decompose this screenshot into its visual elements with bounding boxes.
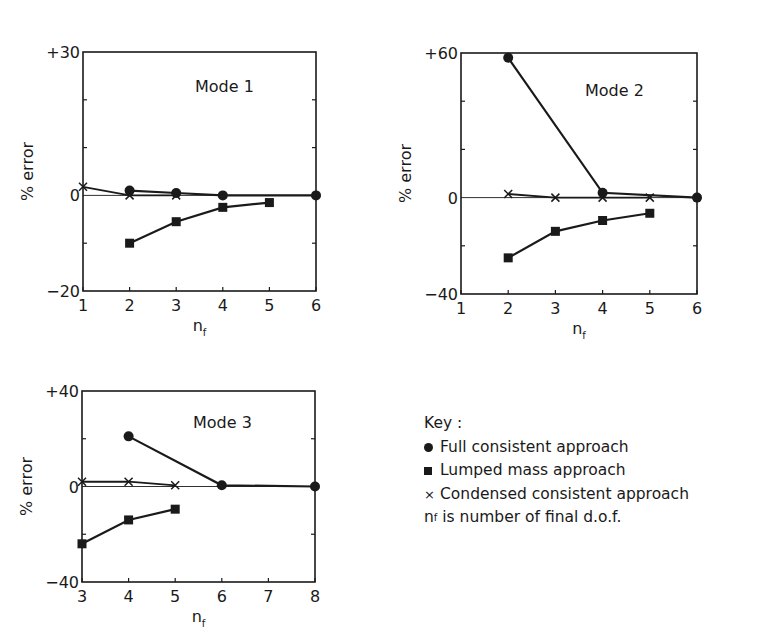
chart-mode-2: 123456+600−40nf% errorMode 2: [396, 44, 702, 341]
x-tick-label: 6: [311, 296, 321, 315]
circle-marker-icon: [503, 53, 513, 63]
x-tick-label: 8: [310, 587, 320, 606]
x-tick-label: 6: [217, 587, 227, 606]
circle-marker-icon: [124, 431, 134, 441]
y-tick-label: −40: [424, 285, 458, 304]
series-line: [508, 213, 650, 258]
chart-mode-1: 123456+300−20nf% errorMode 1: [18, 43, 321, 338]
x-tick-label: 5: [264, 296, 274, 315]
y-tick-label: −20: [46, 282, 80, 301]
x-axis-label: nf: [193, 316, 207, 338]
chart-title: Mode 2: [585, 81, 644, 100]
legend-item-condensed-consistent: × Condensed consistent approach: [424, 483, 689, 507]
y-axis-label: % error: [18, 142, 37, 201]
x-tick-label: 3: [171, 296, 181, 315]
square-marker-icon: [172, 217, 181, 226]
chart-title: Mode 1: [195, 77, 254, 96]
square-marker-icon: [265, 198, 274, 207]
y-tick-label: 0: [70, 186, 80, 205]
x-tick-label: 2: [503, 299, 513, 318]
x-tick-label: 4: [124, 587, 134, 606]
x-axis-label: nf: [572, 319, 586, 341]
y-tick-label: +60: [424, 44, 458, 63]
square-marker-icon: [645, 209, 654, 218]
legend-item-lumped-mass: Lumped mass approach: [424, 459, 689, 483]
x-tick-label: 5: [645, 299, 655, 318]
square-marker-icon: [218, 203, 227, 212]
legend-item-full-consistent: Full consistent approach: [424, 436, 689, 460]
x-tick-label: 4: [598, 299, 608, 318]
circle-marker-icon: [218, 190, 228, 200]
square-marker-icon: [424, 467, 432, 475]
series-line: [129, 436, 315, 486]
x-tick-label: 3: [550, 299, 560, 318]
series-line: [508, 58, 697, 198]
circle-marker-icon: [310, 482, 320, 492]
chart-mode-3: 345678+400−40nf% errorMode 3: [17, 382, 320, 629]
y-axis-label: % error: [17, 457, 36, 516]
square-marker-icon: [171, 505, 180, 514]
circle-marker-icon: [217, 480, 227, 490]
x-tick-label: 4: [218, 296, 228, 315]
circle-marker-icon: [171, 188, 181, 198]
x-tick-label: 5: [170, 587, 180, 606]
y-tick-label: 0: [69, 478, 79, 497]
cross-marker-icon: ×: [424, 483, 440, 507]
circle-marker-icon: [311, 190, 321, 200]
legend-note: nf is number of final d.o.f.: [424, 506, 689, 530]
square-marker-icon: [78, 539, 87, 548]
y-tick-label: +40: [45, 382, 79, 401]
square-marker-icon: [125, 239, 134, 248]
x-axis-label: nf: [192, 607, 206, 629]
x-tick-label: 2: [125, 296, 135, 315]
legend-key: Key : Full consistent approach Lumped ma…: [424, 412, 689, 530]
circle-marker-icon: [424, 443, 433, 452]
chart-title: Mode 3: [193, 413, 252, 432]
circle-marker-icon: [598, 188, 608, 198]
x-tick-label: 7: [263, 587, 273, 606]
y-tick-label: 0: [448, 189, 458, 208]
series-line: [130, 203, 270, 244]
legend-title: Key :: [424, 412, 689, 436]
square-marker-icon: [504, 253, 513, 262]
square-marker-icon: [551, 227, 560, 236]
circle-marker-icon: [692, 193, 702, 203]
x-tick-label: 6: [692, 299, 702, 318]
y-axis-label: % error: [396, 144, 415, 203]
square-marker-icon: [124, 515, 133, 524]
figure-charts: 123456+300−20nf% errorMode 1123456+600−4…: [0, 0, 773, 640]
square-marker-icon: [598, 216, 607, 225]
y-tick-label: +30: [46, 43, 80, 62]
plot-frame: [461, 53, 697, 294]
series-line: [82, 509, 175, 544]
y-tick-label: −40: [45, 573, 79, 592]
